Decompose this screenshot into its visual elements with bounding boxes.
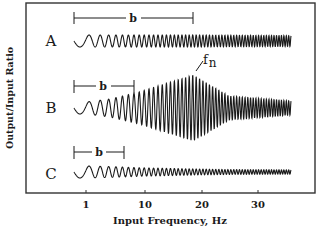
plot-frame	[26, 3, 315, 193]
x-tick-label-30: 30	[251, 199, 265, 210]
x-tick-label-1: 1	[83, 199, 90, 210]
row-label-c: C	[45, 165, 56, 183]
x-tick-label-20: 20	[195, 199, 209, 210]
trace-a	[74, 35, 291, 47]
fn-label: fn	[203, 52, 217, 70]
row-label-b: B	[45, 99, 56, 117]
fn-pointer	[196, 61, 203, 71]
y-axis-label: Output/Input Ratio	[4, 47, 15, 149]
bracket-label-b: b	[99, 80, 107, 93]
x-tick-label-10: 10	[138, 199, 152, 210]
bracket-label-a: b	[129, 12, 137, 25]
chart-figure: 1 10 20 30 Input Frequency, Hz Output/In…	[0, 0, 322, 230]
trace-c	[74, 166, 291, 178]
bracket-label-c: b	[95, 146, 103, 159]
x-axis-label: Input Frequency, Hz	[113, 215, 227, 227]
row-label-a: A	[45, 32, 57, 50]
